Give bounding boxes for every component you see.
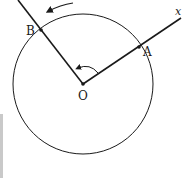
- point-b: [39, 28, 43, 32]
- label-b: B: [26, 24, 35, 38]
- label-x-axis: x: [175, 5, 182, 18]
- point-o: [81, 82, 85, 86]
- circle-angle-diagram: O A B x: [0, 0, 193, 178]
- ray-ob: [18, 0, 83, 84]
- ray-oa: [83, 18, 181, 84]
- angle-arc-arrow-icon: [78, 66, 98, 73]
- label-a: A: [142, 45, 152, 59]
- rotation-arrow-icon: [49, 3, 73, 11]
- point-a: [137, 45, 141, 49]
- label-o: O: [78, 89, 88, 103]
